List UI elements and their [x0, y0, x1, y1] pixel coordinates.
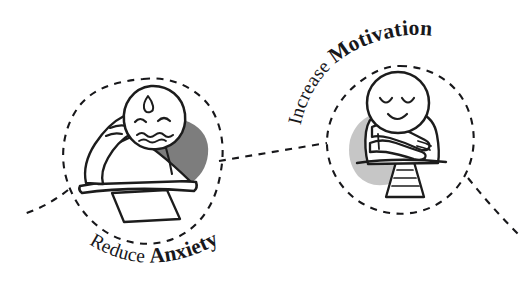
node-reduce-anxiety[interactable]	[63, 78, 223, 243]
label-reduce-anxiety-light: Reduce	[87, 229, 151, 266]
head-content	[367, 72, 429, 133]
node-increase-motivation[interactable]	[327, 66, 474, 214]
label-increase-motivation-bold: Motivation	[324, 16, 434, 68]
head-anxious	[124, 86, 185, 149]
connector-middle-link	[219, 143, 327, 161]
label-increase-motivation-light: Increase	[284, 52, 338, 127]
connector-right-tail	[468, 178, 520, 236]
concept-sketch-svg: Reduce Anxiety	[0, 0, 528, 288]
illustration-canvas: Reduce Anxiety	[0, 0, 528, 288]
sleeve-crease	[378, 134, 379, 149]
paper-sheet	[112, 190, 180, 222]
connector-left-tail	[24, 190, 68, 214]
